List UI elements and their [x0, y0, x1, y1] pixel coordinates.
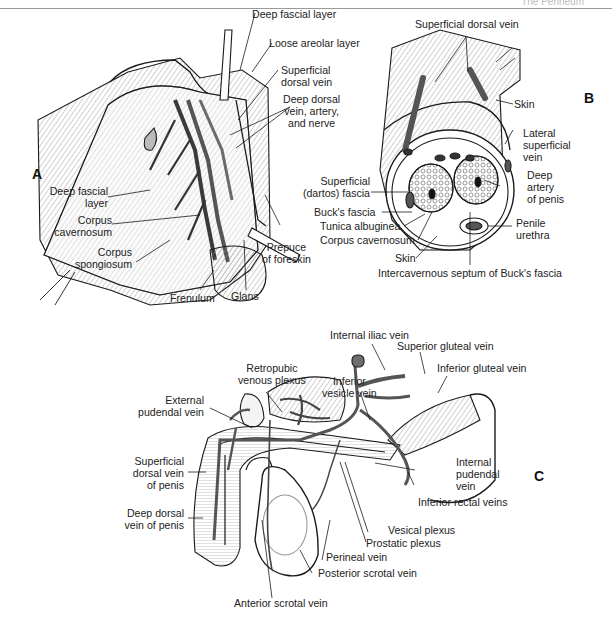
label-intercavernous-septum: Intercavernous septum of Buck's fascia	[378, 267, 562, 279]
label-line: urethra	[516, 229, 550, 241]
label-line: superficial	[523, 139, 571, 151]
label-line: vein, artery,	[283, 105, 340, 117]
label-line: of penis	[112, 479, 184, 491]
label-loose-areolar-layer: Loose areolar layer	[269, 37, 360, 49]
label-line: Superficial	[112, 455, 184, 467]
label-line: cavernosum	[50, 226, 112, 238]
label-posterior-scrotal-vein: Posterior scrotal vein	[318, 567, 417, 579]
label-deep-fascial-layer-top: Deep fascial layer	[252, 8, 336, 20]
label-line: vein	[456, 480, 500, 492]
label-line: pudendal vein	[130, 406, 204, 418]
label-superficial-dorsal-vein-of-penis: Superficial dorsal vein of penis	[112, 455, 184, 491]
label-prostatic-plexus: Prostatic plexus	[366, 537, 441, 549]
label-corpus-cavernosum-b: Corpus cavernosum	[320, 234, 415, 246]
label-internal-pudendal-vein: Internal pudendal vein	[456, 456, 500, 492]
panel-b-illustration	[380, 30, 520, 250]
label-line: External	[130, 394, 204, 406]
label-line: Retropubic	[238, 362, 306, 374]
label-perineal-vein: Perineal vein	[326, 551, 387, 563]
label-glans: Glans	[231, 290, 259, 302]
label-superficial-dorsal-vein-b: Superficial dorsal vein	[415, 18, 519, 30]
label-tunica-albuginea: Tunica albuginea	[320, 220, 400, 232]
label-deep-fascial-layer: Deep fascial layer	[46, 185, 108, 209]
label-line: Inferior	[322, 375, 377, 387]
label-line: Corpus	[70, 246, 132, 258]
label-line: Internal	[456, 456, 500, 468]
label-deep-dorsal-vein-of-penis: Deep dorsal vein of penis	[108, 507, 184, 531]
label-line: Corpus	[50, 214, 112, 226]
label-line: artery	[527, 181, 564, 193]
label-corpus-spongiosum: Corpus spongiosum	[70, 246, 132, 270]
label-line: vein	[523, 151, 571, 163]
label-retropubic-venous-plexus: Retropubic venous plexus	[238, 362, 306, 386]
label-line: Superficial	[281, 64, 332, 76]
label-line: dorsal vein	[281, 76, 332, 88]
label-external-pudendal-vein: External pudendal vein	[130, 394, 204, 418]
label-deep-dorsal-vein-artery-nerve: Deep dorsal vein, artery, and nerve	[283, 93, 340, 129]
label-line: dorsal vein	[112, 467, 184, 479]
label-line: venous plexus	[238, 374, 306, 386]
label-skin-bottom: Skin	[395, 252, 416, 264]
label-line: spongiosum	[70, 258, 132, 270]
label-inferior-rectal-veins: Inferior rectal veins	[418, 496, 508, 508]
panel-b-letter: B	[584, 90, 594, 106]
label-inferior-gluteal-vein: Inferior gluteal vein	[437, 362, 527, 374]
label-line: Deep fascial	[46, 185, 108, 197]
label-prepuce-of-foreskin: Prepuce of foreskin	[262, 241, 311, 265]
label-line: Lateral	[523, 127, 571, 139]
label-anterior-scrotal-vein: Anterior scrotal vein	[234, 597, 328, 609]
label-superior-gluteal-vein: Superior gluteal vein	[397, 340, 494, 352]
label-corpus-cavernosum-a: Corpus cavernosum	[50, 214, 112, 238]
label-line: and nerve	[283, 117, 340, 129]
label-line: (dartos) fascia	[280, 187, 370, 199]
label-line: Penile	[516, 217, 550, 229]
label-superficial-dorsal-vein-a: Superficial dorsal vein	[281, 64, 332, 88]
label-line: of foreskin	[262, 253, 311, 265]
label-penile-urethra: Penile urethra	[516, 217, 550, 241]
label-bucks-fascia: Buck's fascia	[314, 206, 376, 218]
panel-c-letter: C	[534, 468, 544, 484]
label-inferior-vesicle-vein: Inferior vesicle vein	[322, 375, 377, 399]
label-line: Superficial	[280, 175, 370, 187]
label-line: Deep dorsal	[108, 507, 184, 519]
label-frenulum: Frenulum	[170, 292, 215, 304]
label-skin-top: Skin	[514, 98, 535, 110]
label-line: of penis	[527, 193, 564, 205]
label-line: Prepuce	[262, 241, 311, 253]
panel-a-letter: A	[32, 166, 42, 182]
label-lateral-superficial-vein: Lateral superficial vein	[523, 127, 571, 163]
label-line: layer	[46, 197, 108, 209]
label-line: pudendal	[456, 468, 500, 480]
label-line: Deep	[527, 169, 564, 181]
label-vesical-plexus: Vesical plexus	[388, 524, 455, 536]
label-deep-artery-of-penis: Deep artery of penis	[527, 169, 564, 205]
label-line: vein of penis	[108, 519, 184, 531]
label-line: Deep dorsal	[283, 93, 340, 105]
label-line: vesicle vein	[322, 387, 377, 399]
label-superficial-dartos-fascia: Superficial (dartos) fascia	[280, 175, 370, 199]
